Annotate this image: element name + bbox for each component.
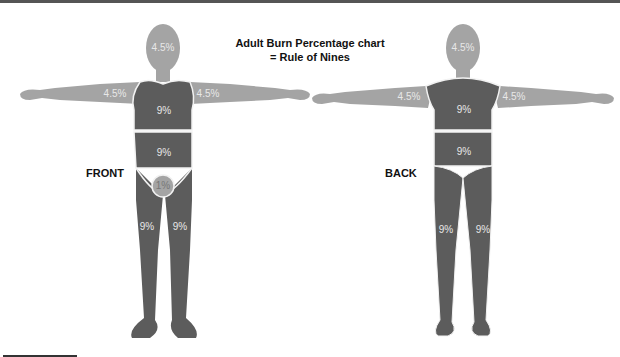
back-right-leg	[463, 166, 492, 336]
front-left-leg-pct: 9%	[140, 221, 155, 232]
back-left-arm-pct: 4.5%	[398, 91, 421, 102]
front-right-arm-pct: 4.5%	[197, 88, 220, 99]
front-left-arm-pct: 4.5%	[104, 88, 127, 99]
body-diagrams: 4.5% 4.5% 4.5% 9% 9% 1% 9% 9% 4.5% 4.5% …	[0, 0, 620, 357]
back-right-arm-pct: 4.5%	[503, 91, 526, 102]
back-figure	[312, 24, 614, 336]
back-left-leg	[434, 166, 463, 336]
back-upper-back-pct: 9%	[457, 104, 472, 115]
back-right-leg-pct: 9%	[476, 224, 491, 235]
back-left-leg-pct: 9%	[439, 224, 454, 235]
front-genitals-pct: 1%	[156, 180, 171, 191]
back-lower-back-pct: 9%	[457, 146, 472, 157]
front-right-leg-pct: 9%	[173, 221, 188, 232]
front-abdomen-pct: 9%	[157, 147, 172, 158]
front-head-pct: 4.5%	[152, 42, 175, 53]
back-head-pct: 4.5%	[452, 42, 475, 53]
front-chest-pct: 9%	[157, 105, 172, 116]
